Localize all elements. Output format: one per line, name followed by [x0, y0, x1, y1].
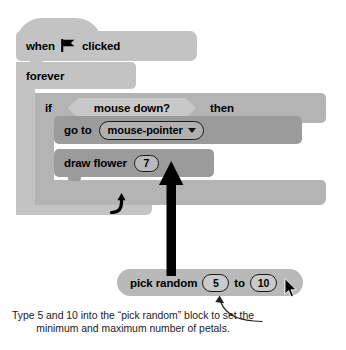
draw-flower-label: draw flower	[64, 157, 127, 169]
clicked-label: clicked	[82, 40, 120, 52]
loop-arrow-icon	[108, 192, 126, 214]
draw-flower-notch	[68, 177, 81, 181]
forever-label: forever	[26, 70, 64, 82]
pick-random-block[interactable]: pick random 5 to 10	[117, 269, 303, 296]
then-label: then	[210, 102, 234, 114]
drag-arrow-up-icon	[158, 161, 184, 276]
go-to-target-dropdown[interactable]: mouse-pointer	[99, 121, 204, 140]
caption-text: Type 5 and 10 into the “pick random” blo…	[12, 309, 254, 335]
scratch-script-illustration: when clicked forever if mouse down? then…	[0, 0, 346, 350]
if-label: if	[45, 102, 52, 114]
mouse-pointer-cursor-icon	[284, 278, 298, 298]
draw-flower-petals-input[interactable]: 7	[134, 155, 159, 172]
pick-random-to-label: to	[234, 277, 245, 289]
go-to-label: go to	[64, 124, 92, 136]
draw-flower-block[interactable]: draw flower 7	[54, 149, 214, 177]
pick-random-max-input[interactable]: 10	[250, 274, 277, 292]
when-green-flag-clicked-block[interactable]: when clicked	[16, 31, 197, 61]
green-flag-icon	[61, 39, 75, 52]
chevron-down-icon	[188, 128, 196, 133]
forever-block[interactable]: forever	[16, 62, 136, 89]
when-label: when	[26, 40, 55, 52]
pick-random-label: pick random	[130, 277, 197, 289]
pick-random-min-input[interactable]: 5	[202, 274, 229, 292]
go-to-target-value: mouse-pointer	[108, 124, 183, 136]
go-to-block[interactable]: go to mouse-pointer	[54, 116, 302, 144]
